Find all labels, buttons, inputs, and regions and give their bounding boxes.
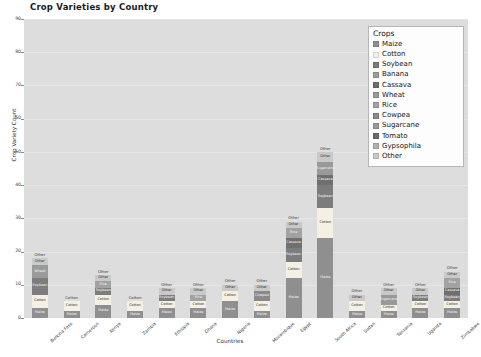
bar-segment[interactable]: Other (159, 288, 175, 295)
bar-segment[interactable]: Cotton (190, 301, 206, 308)
bar-segment[interactable]: Maize (349, 311, 365, 318)
bar-top-label: Other (320, 147, 331, 151)
bar-segment[interactable]: Cotton (317, 208, 333, 238)
bar-segment[interactable]: Maize (286, 278, 302, 318)
bar-segment[interactable]: Maize (190, 308, 206, 318)
bar-segment[interactable]: Maize (222, 301, 238, 318)
bar-stack[interactable]: MaizeCottonRiceOtherOther (190, 288, 206, 318)
legend-item-tomato[interactable]: Tomato (373, 131, 459, 141)
bar-segment[interactable]: Rice (190, 295, 206, 302)
bar-segment[interactable]: Maize (412, 308, 428, 318)
legend-swatch-icon (373, 62, 379, 68)
bar-segment[interactable]: Other (349, 295, 365, 302)
bar-segment[interactable]: Cotton (381, 305, 397, 312)
bar-stack[interactable]: MaizeCottonSoybeanOtherOther (159, 288, 175, 318)
bar-segment[interactable]: Rice (286, 228, 302, 238)
bar-segment[interactable]: Cotton (222, 291, 238, 301)
bar-segment[interactable]: Soybean (95, 288, 111, 295)
bar-stack[interactable]: MaizeCottonSugarcaneOtherOther (381, 288, 397, 318)
bar-stack[interactable]: MaizeCottonCotton (127, 301, 143, 318)
bar-stack[interactable]: MaizeCottonOtherOther (349, 295, 365, 318)
bar-stack[interactable]: MaizeCottonSoybeanOtherOther (412, 288, 428, 318)
bar-segment[interactable]: Cassava (317, 175, 333, 185)
bar-segment[interactable]: Cotton (127, 301, 143, 311)
bar-segment-label: Cassava (286, 242, 301, 246)
bar-segment[interactable]: Rice (444, 278, 460, 288)
legend-item-cotton[interactable]: Cotton (373, 49, 459, 59)
bar-segment[interactable]: Cotton (349, 301, 365, 311)
bar-segment[interactable]: Maize (32, 308, 48, 318)
bar-segment[interactable]: Cotton (444, 301, 460, 308)
bar-segment[interactable]: Soybean (32, 278, 48, 295)
bar-segment[interactable]: Cotton (254, 301, 270, 311)
bar-segment-label: Soybean (318, 195, 333, 199)
bar-stack[interactable]: MaizeCottonSoybeanWheatOtherOther (32, 258, 48, 318)
bar-segment[interactable]: Maize (254, 311, 270, 318)
bar-stack[interactable]: MaizeCottonSoybeanCassavaRiceOtherOther (286, 222, 302, 318)
legend-item-soybean[interactable]: Soybean (373, 60, 459, 70)
bar-segment[interactable]: Other (286, 222, 302, 229)
legend-item-rice[interactable]: Rice (373, 100, 459, 110)
y-axis-tick-mark (21, 318, 24, 319)
bar-stack[interactable]: MaizeCottonSoybeanRiceOtherOther (95, 275, 111, 318)
bar-segment[interactable]: Cotton (95, 295, 111, 305)
bar-segment[interactable]: Cotton (64, 301, 80, 311)
legend-item-maize[interactable]: Maize (373, 39, 459, 49)
bar-top-label: Other (288, 216, 299, 220)
bar-segment[interactable]: Other (190, 288, 206, 295)
bar-segment[interactable]: Maize (444, 308, 460, 318)
legend-item-cassava[interactable]: Cassava (373, 80, 459, 90)
bar-stack[interactable]: MaizeCottonSoybeanCassavaSugarcaneOtherO… (317, 152, 333, 318)
legend-item-banana[interactable]: Banana (373, 70, 459, 80)
bar-segment[interactable]: Sugarcane (381, 295, 397, 305)
legend-item-gypsophila[interactable]: Gypsophila (373, 141, 459, 151)
bar-segment-label: Cotton (319, 222, 331, 226)
bar-segment[interactable]: Other (381, 288, 397, 295)
bar-segment[interactable]: Maize (95, 305, 111, 318)
bar-segment[interactable]: Soybean (412, 295, 428, 302)
bar-segment[interactable]: Maize (127, 311, 143, 318)
bar-segment[interactable]: Cotton (159, 301, 175, 308)
legend-item-sugarcane[interactable]: Sugarcane (373, 121, 459, 131)
bar-segment[interactable]: Wheat (32, 265, 48, 278)
bar-segment[interactable]: Maize (159, 308, 175, 318)
bar-stack[interactable]: MaizeCottonCowpeaOtherOther (254, 285, 270, 318)
bar-segment[interactable]: Cowpea (254, 291, 270, 301)
bar-segment[interactable]: Soybean (286, 248, 302, 261)
bar-stack[interactable]: MaizeCottonSoybeanCassavaRiceOtherOther (444, 272, 460, 319)
bar-segment[interactable]: Other (412, 288, 428, 295)
legend-swatch-icon (373, 82, 379, 88)
bar-segment-label: Cotton (256, 305, 268, 309)
x-axis-tick-label: Kenya (109, 321, 122, 334)
bar-segment[interactable]: Other (32, 258, 48, 265)
bar-segment-label: Maize (288, 296, 298, 300)
bar-segment[interactable]: Cotton (412, 301, 428, 308)
legend-item-cowpea[interactable]: Cowpea (373, 111, 459, 121)
bar-segment[interactable]: Other (222, 285, 238, 292)
legend-item-wheat[interactable]: Wheat (373, 90, 459, 100)
y-axis-tick-label: 10 (0, 282, 21, 287)
bar-segment[interactable]: Maize (64, 311, 80, 318)
bar-segment[interactable]: Maize (381, 311, 397, 318)
bar-segment[interactable]: Soybean (444, 295, 460, 302)
bar-segment[interactable]: Cassava (286, 238, 302, 248)
bar-segment[interactable]: Rice (95, 281, 111, 288)
bar-stack[interactable]: MaizeCottonOtherOther (222, 285, 238, 318)
bar-segment-label: Maize (447, 311, 457, 315)
bar-segment[interactable]: Maize (317, 238, 333, 318)
bar-segment[interactable]: Other (444, 272, 460, 279)
bar-segment-label: Cotton (383, 306, 395, 310)
bar-segment[interactable]: Other (317, 152, 333, 162)
bar-stack[interactable]: MaizeCottonCotton (64, 301, 80, 318)
bar-segment[interactable]: Cotton (32, 295, 48, 308)
bar-segment[interactable]: Other (95, 275, 111, 282)
bar-segment[interactable]: Sugarcane (317, 162, 333, 175)
legend-item-other[interactable]: Other (373, 151, 459, 161)
gridline (24, 218, 468, 219)
y-axis-tick-mark (21, 85, 24, 86)
bar-segment[interactable]: Soybean (317, 185, 333, 208)
bar-segment[interactable]: Soybean (159, 295, 175, 302)
bar-segment[interactable]: Cassava (444, 288, 460, 295)
bar-segment[interactable]: Cotton (286, 262, 302, 279)
bar-segment[interactable]: Other (254, 285, 270, 292)
